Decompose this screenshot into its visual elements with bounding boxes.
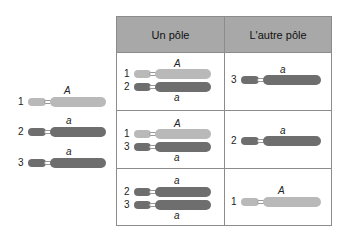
chromosome-number: 3 [18,158,24,168]
chromosome [134,69,211,79]
chromosome [134,187,211,197]
cell-row3-pole1: a 2 3 a [117,169,225,226]
chromosome-number: 1 [124,129,130,139]
allele-label: a [174,211,180,221]
allele-label: a [280,126,286,136]
chromosome-number: 2 [18,127,24,137]
allele-label: A [174,59,181,69]
chromosome-number: 3 [124,200,130,210]
chromosome-number: 3 [231,75,237,85]
chromosome [241,136,321,146]
chromosome-number: 1 [18,97,24,107]
chromosome-number: 2 [124,82,130,92]
allele-label: a [66,116,72,126]
chromosome-number: 1 [124,69,130,79]
chromosome [134,200,211,210]
chromosome [241,75,321,85]
allele-label: a [174,93,180,103]
allele-label: a [174,153,180,163]
chromosome [134,129,211,139]
chromosome-number: 2 [231,136,237,146]
allele-label: A [174,119,181,129]
chromosome-2 [28,127,106,137]
allele-label: A [278,186,285,196]
chromosome [241,197,321,207]
allele-label: a [66,147,72,157]
segregation-table: Un pôle L'autre pôle A 1 2 a 3 a A 1 3 a… [116,16,332,226]
cell-row2-pole1: A 1 3 a [117,111,225,169]
chromosome-3 [28,158,106,168]
chromosome [134,82,211,92]
chromosome-1 [28,97,106,107]
cell-row3-pole2: 1 A [225,169,332,226]
cell-row1-pole1: A 1 2 a [117,53,225,111]
chromosome-number: 1 [231,197,237,207]
chromosome-number: 3 [124,142,130,152]
allele-label: a [174,176,180,186]
chromosome [134,142,211,152]
header-un-pole: Un pôle [117,17,225,53]
allele-label: a [280,65,286,75]
cell-row2-pole2: 2 a [225,111,332,169]
header-autre-pole: L'autre pôle [225,17,332,53]
chromosome-number: 2 [124,187,130,197]
cell-row1-pole2: 3 a [225,53,332,111]
allele-label: A [64,86,71,96]
